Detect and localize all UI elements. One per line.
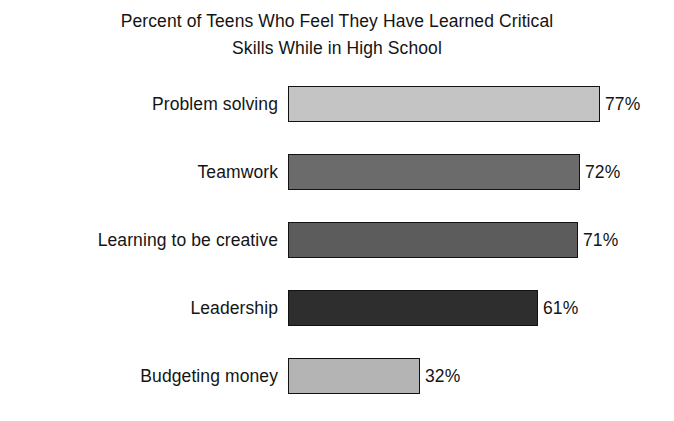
bar-value-label: 71% [583, 230, 618, 250]
bar-value-label: 77% [605, 94, 640, 114]
bar-track: 32% [288, 358, 460, 394]
bar-track: 61% [288, 290, 578, 326]
bar-value-label: 32% [425, 366, 460, 386]
bar-category-label: Budgeting money [0, 366, 278, 386]
bar-row: Teamwork 72% [0, 150, 674, 194]
chart-title: Percent of Teens Who Feel They Have Lear… [0, 8, 674, 62]
bar-track: 72% [288, 154, 620, 190]
bar-category-label: Teamwork [0, 162, 278, 182]
plot-area: Problem solving 77% Teamwork 72% Learnin… [0, 82, 674, 421]
bar-teamwork[interactable] [288, 154, 580, 190]
bar-row: Learning to be creative 71% [0, 218, 674, 262]
chart-title-line-2: Skills While in High School [0, 35, 674, 62]
bar-leadership[interactable] [288, 290, 538, 326]
bar-category-label: Leadership [0, 298, 278, 318]
bar-value-label: 72% [585, 162, 620, 182]
bar-budgeting-money[interactable] [288, 358, 420, 394]
bar-row: Problem solving 77% [0, 82, 674, 126]
bar-row: Budgeting money 32% [0, 354, 674, 398]
bar-track: 77% [288, 86, 640, 122]
bar-learning-to-be-creative[interactable] [288, 222, 578, 258]
bar-row: Leadership 61% [0, 286, 674, 330]
bar-chart-figure: Percent of Teens Who Feel They Have Lear… [0, 0, 674, 421]
bar-value-label: 61% [543, 298, 578, 318]
bar-category-label: Learning to be creative [0, 230, 278, 250]
bar-category-label: Problem solving [0, 94, 278, 114]
bar-problem-solving[interactable] [288, 86, 600, 122]
chart-title-line-1: Percent of Teens Who Feel They Have Lear… [0, 8, 674, 35]
bar-track: 71% [288, 222, 618, 258]
